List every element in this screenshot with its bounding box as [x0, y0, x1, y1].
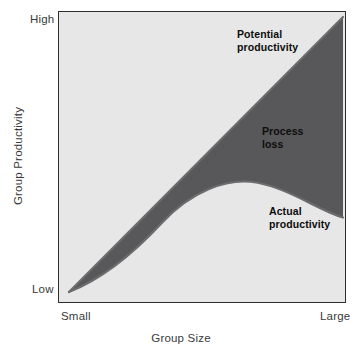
y-axis-min-label: Low — [32, 283, 54, 295]
actual-productivity-curve — [69, 182, 343, 292]
annotation-process-loss: Process loss — [262, 125, 304, 151]
x-axis-max-label: Large — [320, 310, 350, 322]
y-axis-title: Group Productivity — [12, 91, 24, 221]
y-axis-max-label: High — [30, 13, 54, 25]
plot-area: Potential productivity Process loss Actu… — [58, 11, 346, 303]
productivity-chart-figure: High Low Small Large Group Size Group Pr… — [0, 0, 362, 353]
x-axis-title: Group Size — [0, 332, 362, 344]
annotation-potential-productivity: Potential productivity — [237, 28, 298, 54]
annotation-actual-productivity: Actual productivity — [269, 205, 330, 231]
x-axis-min-label: Small — [61, 310, 91, 322]
plot-curves-svg — [59, 12, 345, 302]
